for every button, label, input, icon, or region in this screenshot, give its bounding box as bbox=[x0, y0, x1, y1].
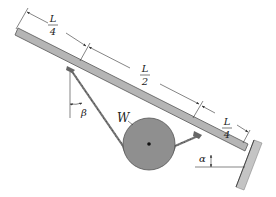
weight-label: W bbox=[117, 111, 133, 125]
svg-text:L: L bbox=[49, 13, 57, 24]
pulley bbox=[123, 118, 175, 170]
diagram-canvas: L 4 L 2 L 4 W β α bbox=[0, 0, 276, 197]
svg-text:4: 4 bbox=[49, 26, 56, 37]
svg-text:L: L bbox=[141, 63, 149, 74]
alpha-angle: α bbox=[195, 153, 245, 167]
svg-text:α: α bbox=[199, 153, 206, 164]
svg-text:4: 4 bbox=[223, 129, 230, 140]
svg-text:W: W bbox=[117, 111, 131, 125]
dim-label-2: L 2 bbox=[140, 63, 150, 87]
svg-text:β: β bbox=[80, 107, 87, 118]
svg-text:L: L bbox=[223, 116, 231, 127]
dim-label-1: L 4 bbox=[48, 13, 58, 37]
beta-angle: β bbox=[70, 72, 87, 118]
svg-text:2: 2 bbox=[141, 76, 148, 87]
